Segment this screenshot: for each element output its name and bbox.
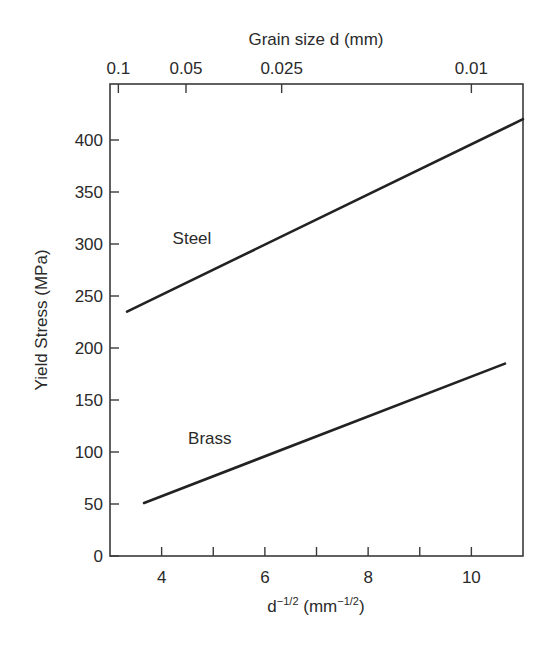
y-tick-label: 250	[75, 287, 103, 306]
plot-border	[110, 84, 523, 556]
x-tick-label: 4	[157, 568, 166, 587]
y-tick-label: 200	[75, 339, 103, 358]
x-axis-bottom: 46810	[157, 547, 481, 587]
x-axis-title-base-exponent: −1/2	[277, 595, 299, 607]
y-tick-label: 350	[75, 183, 103, 202]
x-tick-label: 8	[363, 568, 372, 587]
top-tick-label: 0.025	[260, 59, 303, 78]
y-tick-label: 150	[75, 391, 103, 410]
y-tick-label: 100	[75, 443, 103, 462]
top-axis-title: Grain size d (mm)	[248, 30, 383, 49]
series-label-brass: Brass	[188, 429, 231, 448]
top-tick-label: 0.01	[455, 59, 488, 78]
y-tick-label: 0	[94, 547, 103, 566]
y-tick-label: 400	[75, 131, 103, 150]
chart: 46810 0.10.050.0250.01 05010015020025030…	[0, 0, 553, 648]
y-tick-label: 300	[75, 235, 103, 254]
top-tick-label: 0.05	[169, 59, 202, 78]
y-axis: 050100150200250300350400	[75, 131, 119, 566]
y-axis-title: Yield Stress (MPa)	[32, 249, 51, 390]
series-lines: SteelBrass	[127, 119, 523, 503]
x-axis-title: d−1/2 (mm−1/2)	[267, 595, 364, 616]
top-tick-label: 0.1	[107, 59, 131, 78]
x-tick-label: 6	[260, 568, 269, 587]
series-label-steel: Steel	[173, 229, 212, 248]
x-axis-title-unit-exponent: −1/2	[337, 595, 359, 607]
x-axis-title-base: d	[267, 597, 276, 616]
series-line-steel	[127, 119, 523, 311]
y-tick-label: 50	[84, 495, 103, 514]
x-tick-label: 10	[462, 568, 481, 587]
x-axis-title-close: )	[359, 597, 365, 616]
plot-frame	[110, 84, 523, 556]
x-axis-top: 0.10.050.0250.01	[107, 59, 488, 93]
x-axis-title-unit: (mm	[299, 597, 338, 616]
